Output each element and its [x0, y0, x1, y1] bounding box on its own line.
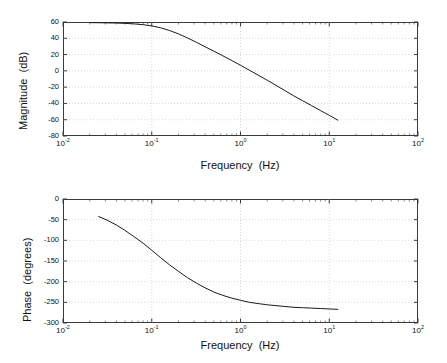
phase-x-axis-title: Frequency (Hz) [140, 340, 340, 351]
x-tick-label: 102 [404, 327, 432, 335]
x-tick-label: 10-2 [49, 140, 77, 148]
phase-panel: 0-50-100-150-200-250-300 10-210-11001011… [0, 182, 447, 363]
y-tick-label: 0 [19, 195, 59, 203]
x-tick-label: 100 [227, 327, 255, 335]
magnitude-response-curve [90, 23, 338, 121]
magnitude-plot-canvas [0, 0, 447, 182]
magnitude-panel: 6040200-20-40-60-80 10-210-1100101102 Ma… [0, 0, 447, 182]
y-tick-label: -80 [19, 132, 59, 140]
y-tick-label: 40 [19, 34, 59, 42]
x-tick-label: 10-1 [138, 140, 166, 148]
x-tick-label: 10-1 [138, 327, 166, 335]
phase-y-axis-title: Phase (degrees) [22, 238, 33, 322]
y-tick-label: 60 [19, 18, 59, 26]
phase-plot-canvas [0, 182, 447, 363]
magnitude-x-axis-title: Frequency (Hz) [140, 160, 340, 171]
bode-plot-figure: 6040200-20-40-60-80 10-210-1100101102 Ma… [0, 0, 447, 363]
magnitude-y-axis-title: Magnitude (dB) [18, 52, 29, 130]
x-tick-label: 101 [315, 327, 343, 335]
phase-response-curve [98, 216, 338, 309]
x-tick-label: 101 [315, 140, 343, 148]
x-tick-label: 102 [404, 140, 432, 148]
y-tick-label: -50 [19, 216, 59, 224]
x-tick-label: 100 [227, 140, 255, 148]
x-tick-label: 10-2 [49, 327, 77, 335]
phase-gridlines [63, 199, 418, 323]
magnitude-gridlines [63, 22, 418, 136]
